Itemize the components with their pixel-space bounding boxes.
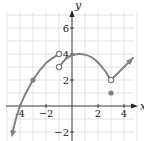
- open-point: [56, 51, 61, 56]
- y-axis-label: y: [74, 0, 82, 12]
- y-tick-label: 6: [63, 23, 69, 34]
- x-tick-label: 2: [95, 108, 101, 119]
- y-tick-label: −2: [54, 127, 69, 138]
- y-axis-arrowhead: [70, 10, 75, 17]
- curve-left-parabola: [12, 54, 59, 133]
- x-tick-label: −2: [39, 108, 54, 119]
- x-tick-label: 4: [121, 108, 127, 119]
- open-point: [108, 77, 113, 82]
- open-point: [56, 64, 61, 69]
- closed-point: [108, 90, 113, 95]
- axes: x y: [6, 0, 144, 141]
- curve-arrowhead: [10, 130, 16, 138]
- y-tick-label: 2: [63, 75, 69, 86]
- function-graph: x y -4−224−2246: [0, 0, 144, 141]
- closed-point: [30, 77, 35, 82]
- x-axis-label: x: [140, 100, 144, 113]
